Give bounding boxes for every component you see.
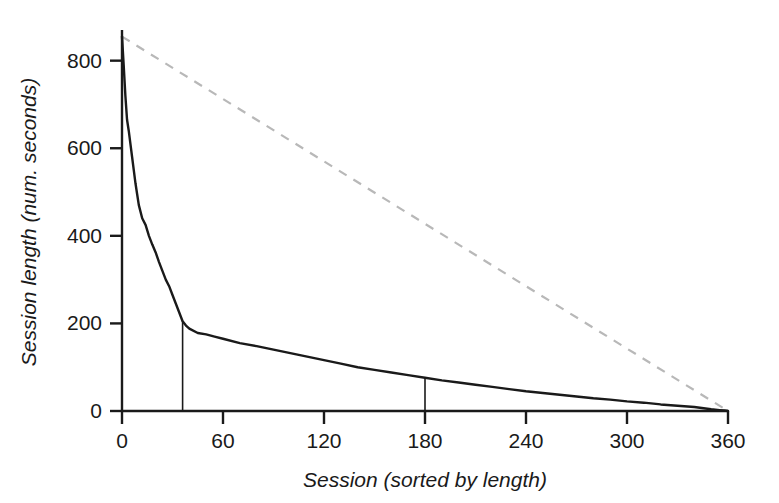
session-length-line-chart: 0200400600800 060120180240300360 Session…: [0, 0, 779, 503]
x-tick-label-360: 360: [710, 429, 745, 452]
x-axis-title: Session (sorted by length): [303, 468, 547, 491]
x-tick-label-300: 300: [609, 429, 644, 452]
y-axis-title: Session length (num. seconds): [17, 78, 40, 366]
x-tick-label-180: 180: [407, 429, 442, 452]
y-tick-label-800: 800: [67, 49, 102, 72]
chart-background: [0, 0, 779, 503]
x-tick-label-120: 120: [306, 429, 341, 452]
y-tick-label-200: 200: [67, 311, 102, 334]
x-tick-label-240: 240: [508, 429, 543, 452]
chart-figure: 0200400600800 060120180240300360 Session…: [0, 0, 779, 503]
y-tick-label-0: 0: [90, 399, 102, 422]
y-tick-label-600: 600: [67, 136, 102, 159]
x-tick-label-60: 60: [211, 429, 234, 452]
y-tick-label-400: 400: [67, 224, 102, 247]
x-tick-label-0: 0: [116, 429, 128, 452]
